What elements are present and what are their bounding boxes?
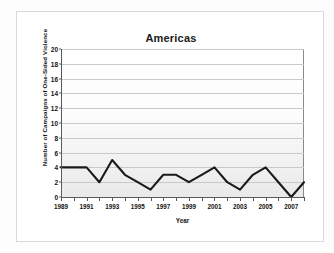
x-axis-line — [61, 197, 305, 198]
series-line-americas — [61, 49, 304, 197]
x-tick-mark — [304, 198, 305, 201]
y-tick-label: 0 — [54, 194, 58, 201]
y-axis-line — [61, 49, 62, 198]
x-tick-mark — [151, 198, 152, 201]
x-tick-label: 2007 — [284, 203, 298, 210]
x-tick-mark — [240, 198, 241, 201]
y-tick-label: 20 — [51, 46, 58, 53]
chart-page: Americas Number of Campaigns of One-Side… — [0, 0, 334, 253]
x-tick-label: 1989 — [54, 203, 68, 210]
x-tick-label: 1999 — [182, 203, 196, 210]
x-tick-mark — [125, 198, 126, 201]
x-tick-label: 2005 — [259, 203, 273, 210]
y-axis-title: Number of Campaigns of One-Sided Violenc… — [41, 23, 48, 173]
y-tick-label: 12 — [51, 105, 58, 112]
y-tick-label: 4 — [54, 164, 58, 171]
x-tick-mark — [163, 198, 164, 201]
x-tick-mark — [74, 198, 75, 201]
x-tick-mark — [227, 198, 228, 201]
x-tick-label: 1993 — [105, 203, 119, 210]
x-tick-mark — [189, 198, 190, 201]
x-tick-mark — [266, 198, 267, 201]
chart-card: Americas Number of Campaigns of One-Side… — [16, 11, 324, 242]
x-tick-label: 2001 — [207, 203, 221, 210]
x-tick-label: 1997 — [156, 203, 170, 210]
y-tick-label: 16 — [51, 75, 58, 82]
y-tick-label: 14 — [51, 90, 58, 97]
x-tick-label: 1995 — [131, 203, 145, 210]
x-tick-mark — [112, 198, 113, 201]
x-tick-label: 1991 — [80, 203, 94, 210]
y-tick-label: 18 — [51, 60, 58, 67]
y-tick-label: 2 — [54, 179, 58, 186]
y-tick-label: 8 — [54, 134, 58, 141]
x-tick-mark — [138, 198, 139, 201]
chart-title: Americas — [17, 32, 325, 44]
x-tick-mark — [176, 198, 177, 201]
y-tick-label: 10 — [51, 120, 58, 127]
x-tick-mark — [278, 198, 279, 201]
x-tick-mark — [291, 198, 292, 201]
y-tick-label: 6 — [54, 149, 58, 156]
x-tick-mark — [61, 198, 62, 201]
x-axis-title: Year — [61, 217, 304, 224]
x-tick-mark — [87, 198, 88, 201]
x-tick-mark — [202, 198, 203, 201]
plot-area: 02468101214161820 — [61, 49, 304, 197]
x-tick-label: 2003 — [233, 203, 247, 210]
x-tick-mark — [99, 198, 100, 201]
x-tick-mark — [214, 198, 215, 201]
x-tick-mark — [253, 198, 254, 201]
